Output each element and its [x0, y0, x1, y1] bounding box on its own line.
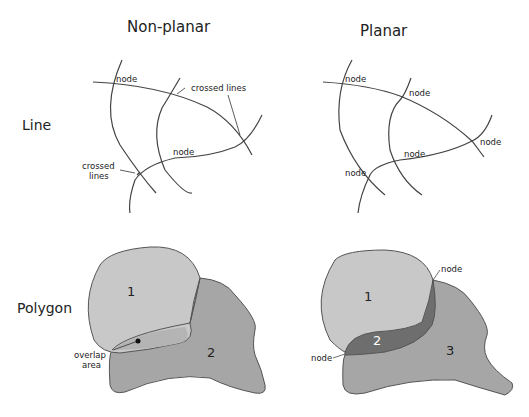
- overlap-area-label: area: [82, 360, 101, 370]
- nonplanar-polygons: [88, 247, 265, 393]
- planar-polygons: [321, 250, 513, 395]
- crossed-lines-label: crossed: [82, 161, 115, 171]
- nonplanar-arrows: [120, 88, 240, 173]
- column-title-nonplanar: Non-planar: [127, 18, 210, 36]
- overlap-area-label: overlap: [74, 350, 106, 360]
- column-title-planar: Planar: [360, 22, 407, 40]
- node-label: node: [345, 168, 366, 178]
- node-label: node: [311, 353, 332, 363]
- node-label: node: [441, 264, 462, 274]
- polygon-3-label: 3: [446, 343, 454, 358]
- polygon-2-label: 2: [373, 333, 381, 348]
- node-label: node: [345, 74, 366, 84]
- polygon-1-label: 1: [127, 284, 135, 299]
- row-label-polygon: Polygon: [17, 300, 72, 316]
- row-label-line: Line: [22, 117, 51, 133]
- polygon-2-label: 2: [207, 345, 215, 360]
- crossed-lines-label: crossed lines: [191, 83, 246, 93]
- polygon-1-label: 1: [364, 289, 372, 304]
- node-label: node: [409, 88, 430, 98]
- node-label: node: [173, 147, 194, 157]
- node-label: node: [404, 149, 425, 159]
- crossed-lines-label: lines: [89, 171, 109, 181]
- node-label: node: [116, 74, 137, 84]
- node-label: node: [480, 137, 501, 147]
